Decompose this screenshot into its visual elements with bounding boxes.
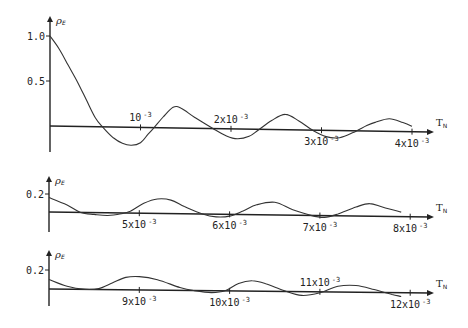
y-tick-label: 0.5 (27, 76, 45, 87)
y-axis-label: ρE (55, 15, 66, 26)
x-axis-label: TN (436, 278, 447, 290)
x-tick-label: 5x10-3 (122, 218, 157, 230)
chart-panel-2: ρETN0.25x10-36x10-37x10-38x10-3 (26, 175, 447, 234)
correlation-chart-figure: ρETN0.51.010-32x10-33x10-34x10-3ρETN0.25… (0, 0, 468, 328)
x-tick-label: 12x10-3 (390, 298, 431, 310)
y-tick-label: 1.0 (27, 31, 45, 42)
x-axis-arrow-icon (427, 129, 434, 135)
x-axis-label: TN (436, 202, 447, 214)
chart-panel-1: ρETN0.51.010-32x10-33x10-34x10-3 (27, 15, 447, 152)
y-axis-label: ρE (54, 249, 65, 260)
x-tick-label: 6x10-3 (212, 219, 247, 231)
x-tick-label: 3x10-3 (304, 135, 339, 147)
y-axis-arrow-icon (46, 176, 52, 182)
rho-e-curve (49, 276, 401, 296)
x-axis-arrow-icon (427, 290, 434, 296)
x-tick-label: 4x10-3 (395, 137, 430, 149)
y-axis-arrow-icon (47, 16, 53, 22)
y-axis-arrow-icon (46, 250, 52, 256)
x-tick-label: 10-3 (129, 111, 151, 123)
x-tick-label: 9x10-3 (122, 295, 157, 307)
x-axis-label: TN (436, 117, 447, 129)
x-tick-label: 8x10-3 (393, 222, 428, 234)
x-tick-label: 7x10-3 (303, 221, 338, 233)
y-tick-label: 0.2 (26, 189, 44, 200)
y-axis-label: ρE (54, 175, 65, 186)
y-tick-label: 0.2 (26, 265, 44, 276)
x-tick-label: 11x10-3 (300, 276, 341, 288)
x-axis-arrow-icon (427, 214, 434, 220)
x-tick-label: 10x10-3 (209, 296, 250, 308)
x-tick-label: 2x10-3 (214, 113, 249, 125)
chart-panel-3: ρETN0.29x10-310x10-311x10-312x10-3 (26, 249, 447, 310)
